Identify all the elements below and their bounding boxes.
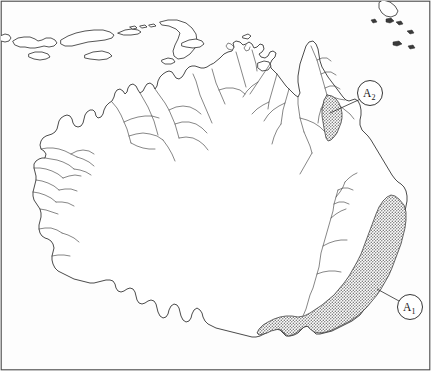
map-canvas: A 2 A 1 xyxy=(0,0,431,371)
island-sumbawa xyxy=(13,37,57,48)
island-dot-b xyxy=(140,25,147,28)
label-sub-a1: 1 xyxy=(412,307,416,316)
island-dot-c xyxy=(149,24,156,27)
island-java-tip xyxy=(0,34,11,42)
label-sub-a2: 2 xyxy=(372,93,376,102)
map-figure: A 2 A 1 xyxy=(0,0,431,371)
